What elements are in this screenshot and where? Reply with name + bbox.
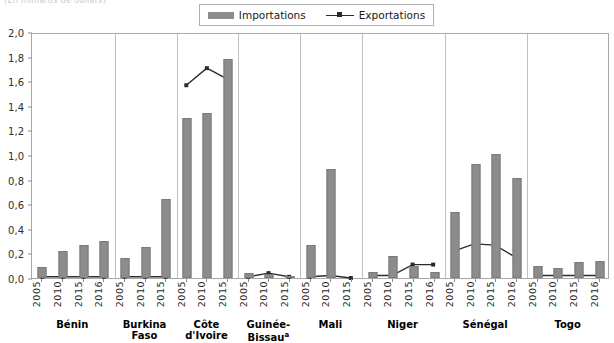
y-axis-tick-mark [28, 205, 32, 206]
x-axis-tick-mark [206, 279, 207, 282]
bar-importations [451, 212, 460, 278]
y-axis-tick-label: 1,4 [8, 101, 24, 112]
group-separator [115, 34, 116, 278]
y-axis-tick-label: 0,6 [8, 200, 24, 211]
bar-importations [120, 258, 129, 278]
x-axis-year-label: 2010 [51, 281, 62, 307]
bar-importations [409, 266, 418, 278]
x-axis-year-label: 2005 [175, 281, 186, 307]
x-axis-year-label: 2015 [72, 281, 83, 307]
y-axis-tick-mark [28, 131, 32, 132]
x-axis-year-label: 2005 [237, 281, 248, 307]
x-axis-year-label: 2015 [217, 281, 228, 307]
y-axis: 0,00,20,40,60,81,01,21,41,61,82,0 [0, 33, 28, 279]
bar-importations [327, 169, 336, 278]
bar-importations [471, 164, 480, 278]
y-axis-tick-label: 0,2 [8, 249, 24, 260]
plot-area [31, 33, 609, 279]
y-axis-tick-mark [28, 156, 32, 157]
y-axis-tick-mark [28, 180, 32, 181]
y-axis-tick-mark [28, 57, 32, 58]
country-group-label: Bénin [56, 319, 88, 330]
country-footnote-marker: a [284, 331, 289, 339]
legend-label-exportations: Exportations [359, 9, 425, 21]
bar-importations [533, 266, 542, 278]
x-axis-year-label: 2010 [134, 281, 145, 307]
caption-remnant: (En milliards de dollars) [4, 0, 106, 4]
bar-importations [595, 261, 604, 278]
legend-bar-swatch-icon [208, 12, 234, 19]
x-axis-year-label: 2016 [93, 281, 104, 307]
x-axis-year-label: 2015 [402, 281, 413, 307]
country-group-label: Burkina Faso [114, 319, 176, 341]
x-axis-year-label: 2016 [423, 281, 434, 307]
country-name: Sénégal [463, 319, 508, 330]
x-axis-year-label: 2010 [320, 281, 331, 307]
bar-importations [38, 267, 47, 278]
bar-importations [203, 113, 212, 278]
bar-importations [58, 251, 67, 278]
y-axis-tick-label: 2,0 [8, 28, 24, 39]
country-group-label: Sénégal [463, 319, 508, 330]
bar-importations [513, 178, 522, 278]
x-axis-year-label: 2005 [299, 281, 310, 307]
country-name: Côte d'Ivoire [185, 319, 227, 341]
x-axis-year-label: 2010 [382, 281, 393, 307]
x-axis-tick-mark [557, 279, 558, 282]
bar-importations [141, 247, 150, 278]
bar-importations [554, 268, 563, 278]
bar-importations [244, 273, 253, 278]
x-axis-year-label: 2016 [506, 281, 517, 307]
legend-line-swatch-icon [326, 12, 354, 19]
country-group-label: Togo [555, 319, 581, 330]
x-axis-year-label: 2015 [279, 281, 290, 307]
chart-legend: Importations Exportations [199, 4, 434, 26]
exportations-line [371, 265, 433, 276]
x-axis-year-label: 2010 [196, 281, 207, 307]
x-axis-year-label: 2015 [340, 281, 351, 307]
y-axis-tick-mark [28, 254, 32, 255]
y-axis-tick-mark [28, 82, 32, 83]
country-name: Burkina Faso [123, 319, 167, 341]
x-axis-tick-mark [268, 279, 269, 282]
exportations-line-layer [32, 34, 608, 278]
y-axis-tick-mark [28, 279, 32, 280]
y-axis-tick-label: 0,8 [8, 175, 24, 186]
legend-item-exportations: Exportations [326, 9, 425, 21]
bar-importations [100, 241, 109, 278]
country-name: Mali [319, 319, 343, 330]
bar-importations [182, 118, 191, 278]
country-name: Bénin [56, 319, 88, 330]
group-separator [300, 34, 301, 278]
x-axis-year-label: 2005 [526, 281, 537, 307]
country-name: Niger [387, 319, 418, 330]
group-separator [238, 34, 239, 278]
x-axis-year-label: 2005 [31, 281, 42, 307]
bar-importations [224, 59, 233, 278]
x-axis-year-label: 2015 [568, 281, 579, 307]
legend-item-importations: Importations [208, 9, 306, 21]
x-axis-year-label: 2005 [113, 281, 124, 307]
y-axis-tick-label: 1,0 [8, 151, 24, 162]
bar-importations [368, 272, 377, 278]
x-axis: 2005201020152016Bénin200520102015Burkina… [31, 279, 609, 340]
x-axis-tick-mark [495, 279, 496, 282]
x-axis-year-label: 2005 [361, 281, 372, 307]
y-axis-tick-label: 1,6 [8, 77, 24, 88]
exportations-line [186, 68, 227, 85]
bar-importations [265, 274, 274, 278]
y-axis-tick-label: 0,0 [8, 274, 24, 285]
x-axis-year-label: 2010 [464, 281, 475, 307]
bar-importations [575, 262, 584, 278]
bar-importations [306, 245, 315, 278]
group-separator [527, 34, 528, 278]
x-axis-year-label: 2010 [547, 281, 558, 307]
exportations-marker [205, 66, 209, 70]
exportations-marker [184, 83, 188, 87]
group-separator [445, 34, 446, 278]
country-name: Togo [555, 319, 581, 330]
exportations-line [454, 244, 516, 257]
y-axis-tick-mark [28, 33, 32, 34]
bar-importations [162, 199, 171, 278]
